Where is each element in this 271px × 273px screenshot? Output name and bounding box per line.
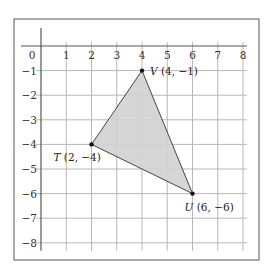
vertex-v — [140, 68, 144, 72]
y-tick-label: −1 — [22, 65, 37, 77]
x-tick-label: 1 — [63, 49, 70, 61]
x-tick-label: 6 — [189, 49, 196, 61]
y-tick-label: −2 — [22, 89, 37, 101]
x-tick-label: 4 — [139, 49, 146, 61]
vertex-u — [190, 191, 194, 195]
coordinate-plane-figure: 012345678−1−2−3−4−5−6−7−8 V (4, −1)T (2,… — [0, 0, 271, 273]
y-tick-label: −4 — [22, 138, 38, 150]
x-tick-label: 7 — [214, 49, 221, 61]
y-tick-label: −7 — [22, 212, 37, 224]
y-tick-label: −8 — [22, 237, 37, 249]
x-tick-label: 3 — [113, 49, 120, 61]
y-tick-label: −5 — [22, 163, 37, 175]
vertex-label-t: T (2, −4) — [54, 151, 101, 163]
x-tick-label: 8 — [240, 49, 247, 61]
x-tick-label: 0 — [29, 49, 36, 61]
y-tick-label: −3 — [22, 114, 37, 126]
x-tick-label: 2 — [88, 49, 95, 61]
vertex-t — [89, 142, 93, 146]
x-tick-label: 5 — [164, 49, 171, 61]
y-tick-label: −6 — [22, 188, 38, 200]
vertex-label-u: U (6, −6) — [185, 201, 234, 213]
vertex-label-v: V (4, −1) — [150, 65, 198, 77]
